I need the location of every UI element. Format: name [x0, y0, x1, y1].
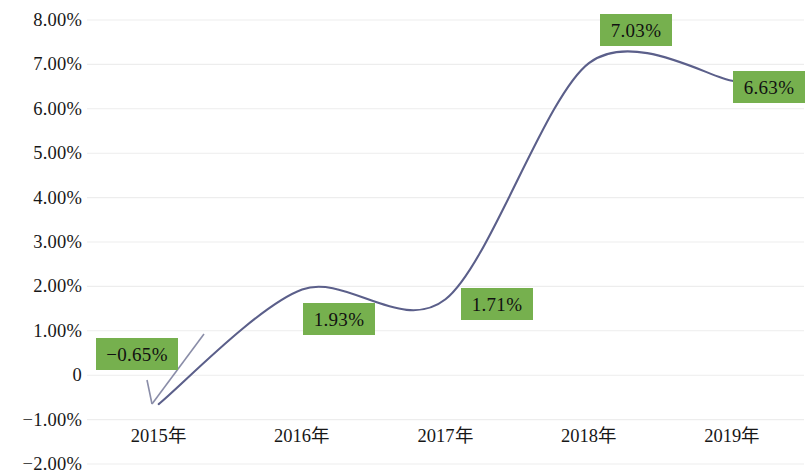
y-axis-tick-label: 4.00% — [4, 189, 82, 208]
x-axis-tick-label: 2015年 — [131, 427, 187, 446]
x-axis-tick-label: 2019年 — [704, 427, 760, 446]
data-label: 6.63% — [733, 71, 805, 103]
y-axis-tick-label: 5.00% — [4, 144, 82, 163]
y-axis-tick-label: 6.00% — [4, 100, 82, 119]
gridlines — [87, 20, 804, 464]
y-axis-tick-label: 1.00% — [4, 322, 82, 341]
y-axis-tick-label: 3.00% — [4, 233, 82, 252]
data-label: 7.03% — [600, 14, 672, 46]
y-axis-tick-label: 2.00% — [4, 277, 82, 296]
data-label: −0.65% — [96, 338, 178, 370]
data-label: 1.93% — [303, 303, 375, 335]
y-axis-tick-label: −1.00% — [4, 411, 82, 430]
y-axis-tick-label: −2.00% — [4, 455, 82, 470]
x-axis-tick-label: 2016年 — [274, 427, 330, 446]
leader-line-2015-arrow — [147, 380, 152, 404]
y-axis-tick-label: 7.00% — [4, 55, 82, 74]
data-label: 1.71% — [461, 288, 533, 320]
x-axis-tick-label: 2018年 — [561, 427, 617, 446]
series-line — [159, 51, 733, 404]
y-axis-tick-labels: 8.00%7.00%6.00%5.00%4.00%3.00%2.00%1.00%… — [0, 0, 82, 470]
x-axis-tick-label: 2017年 — [418, 427, 474, 446]
y-axis-tick-label: 0 — [4, 366, 82, 385]
y-axis-tick-label: 8.00% — [4, 11, 82, 30]
